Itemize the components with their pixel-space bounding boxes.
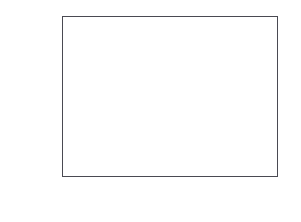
figure-container (0, 0, 301, 222)
probability-plot (62, 16, 278, 177)
reference-line (62, 16, 278, 177)
